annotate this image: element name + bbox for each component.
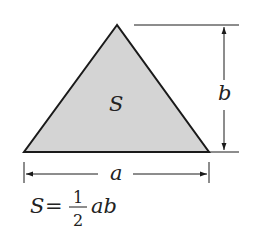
area-formula: S = 1 2 ab (30, 188, 117, 230)
formula-equals: = (45, 194, 63, 218)
height-label: b (218, 81, 231, 105)
triangle-shape (24, 25, 209, 152)
formula-rhs: ab (91, 194, 117, 218)
formula-numerator: 1 (73, 188, 83, 207)
area-label: S (109, 92, 123, 116)
triangle-area-diagram: b a S S = 1 2 ab (0, 0, 254, 241)
formula-denominator: 2 (73, 211, 83, 230)
formula-lhs: S (30, 194, 44, 218)
base-label: a (110, 161, 123, 185)
